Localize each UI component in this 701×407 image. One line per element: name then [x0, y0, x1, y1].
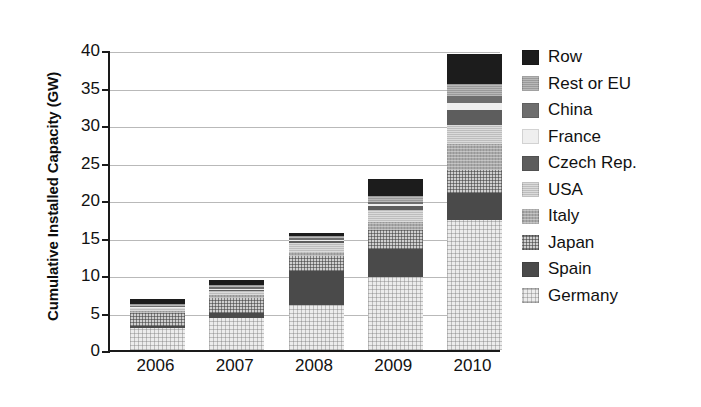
bar-segment-usa[interactable]: [209, 291, 264, 296]
bar-segment-germany[interactable]: [447, 220, 502, 350]
bar-segment-japan[interactable]: [289, 256, 344, 272]
legend-swatch-icon: [522, 182, 539, 197]
x-axis-tick-labels: 20062007200820092010: [108, 356, 500, 386]
gridline: [110, 90, 500, 91]
y-axis-tick-label: 25: [58, 154, 100, 174]
bar-2010[interactable]: [447, 54, 502, 350]
bar-segment-germany[interactable]: [289, 305, 344, 350]
y-axis-tick: [102, 351, 110, 353]
bar-segment-japan[interactable]: [130, 313, 185, 326]
legend-item-label: Row: [548, 47, 582, 67]
legend-item-label: China: [548, 100, 592, 120]
bar-segment-japan[interactable]: [209, 298, 264, 312]
legend-swatch-icon: [522, 156, 539, 171]
bar-segment-row[interactable]: [289, 233, 344, 236]
legend-item-japan[interactable]: Japan: [522, 230, 697, 257]
bar-segment-usa[interactable]: [289, 243, 344, 252]
legend-item-label: Germany: [548, 286, 618, 306]
legend-item-spain[interactable]: Spain: [522, 256, 697, 283]
bar-2008[interactable]: [289, 233, 344, 350]
x-axis-tick-label: 2006: [121, 356, 191, 376]
bar-segment-usa[interactable]: [130, 307, 185, 311]
bar-segment-spain[interactable]: [209, 313, 264, 318]
legend-item-row[interactable]: Row: [522, 44, 697, 71]
x-axis-tick-label: 2007: [200, 356, 270, 376]
legend-item-czech-rep[interactable]: Czech Rep.: [522, 150, 697, 177]
bar-segment-row[interactable]: [209, 280, 264, 285]
y-axis-tick-label: 0: [58, 341, 100, 361]
y-axis-tick: [102, 276, 110, 278]
gridline: [110, 202, 500, 203]
bar-segment-usa[interactable]: [447, 125, 502, 144]
legend-swatch-icon: [522, 209, 539, 224]
y-axis-tick-label: 35: [58, 79, 100, 99]
bar-segment-usa[interactable]: [368, 210, 423, 222]
bar-segment-japan[interactable]: [368, 230, 423, 249]
bar-2009[interactable]: [368, 179, 423, 350]
y-axis-tick: [102, 89, 110, 91]
legend-item-label: Rest or EU: [548, 74, 631, 94]
bar-segment-france[interactable]: [447, 103, 502, 111]
gridline: [110, 52, 500, 53]
bar-segment-rest-or-eu[interactable]: [130, 304, 185, 306]
legend-swatch-icon: [522, 235, 539, 250]
bar-segment-czech-rep[interactable]: [368, 206, 423, 210]
bar-segment-italy[interactable]: [209, 295, 264, 298]
bar-segment-japan[interactable]: [447, 170, 502, 193]
bar-segment-france[interactable]: [209, 289, 264, 291]
legend-swatch-icon: [522, 76, 539, 91]
bar-segment-china[interactable]: [209, 287, 264, 289]
y-axis-tick: [102, 164, 110, 166]
bar-segment-china[interactable]: [130, 306, 185, 307]
bar-segment-rest-or-eu[interactable]: [447, 84, 502, 96]
bar-segment-france[interactable]: [368, 204, 423, 206]
legend-swatch-icon: [522, 103, 539, 118]
bar-segment-spain[interactable]: [289, 271, 344, 305]
bar-2006[interactable]: [130, 299, 185, 350]
legend-item-label: Spain: [548, 259, 591, 279]
legend-item-label: Italy: [548, 206, 579, 226]
legend-item-label: Czech Rep.: [548, 153, 637, 173]
bar-segment-germany[interactable]: [209, 318, 264, 350]
legend-item-rest-or-eu[interactable]: Rest or EU: [522, 71, 697, 98]
bar-segment-china[interactable]: [368, 202, 423, 204]
legend-swatch-icon: [522, 288, 539, 303]
bar-segment-row[interactable]: [130, 299, 185, 304]
bar-segment-row[interactable]: [368, 179, 423, 196]
bar-segment-row[interactable]: [447, 54, 502, 84]
x-axis-tick-label: 2008: [279, 356, 349, 376]
bar-segment-germany[interactable]: [130, 328, 185, 351]
bar-segment-spain[interactable]: [447, 193, 502, 221]
y-axis-tick: [102, 201, 110, 203]
bar-segment-spain[interactable]: [130, 326, 185, 328]
legend-item-italy[interactable]: Italy: [522, 203, 697, 230]
bar-segment-germany[interactable]: [368, 277, 423, 351]
legend-item-germany[interactable]: Germany: [522, 283, 697, 310]
bar-segment-spain[interactable]: [368, 249, 423, 277]
bar-segment-italy[interactable]: [447, 144, 502, 170]
bar-segment-italy[interactable]: [289, 252, 344, 256]
bar-segment-czech-rep[interactable]: [209, 290, 264, 291]
legend-item-label: France: [548, 127, 601, 147]
y-axis-tick-label: 20: [58, 191, 100, 211]
bar-segment-italy[interactable]: [368, 222, 423, 230]
legend-swatch-icon: [522, 129, 539, 144]
bar-segment-china[interactable]: [447, 96, 502, 103]
bar-segment-china[interactable]: [289, 238, 344, 240]
y-axis-tick: [102, 126, 110, 128]
legend-item-france[interactable]: France: [522, 124, 697, 151]
legend-item-label: USA: [548, 180, 583, 200]
legend-item-china[interactable]: China: [522, 97, 697, 124]
bar-2007[interactable]: [209, 280, 264, 350]
bar-segment-rest-or-eu[interactable]: [209, 285, 264, 287]
bar-segment-czech-rep[interactable]: [447, 110, 502, 125]
plot-area: [108, 52, 500, 352]
bar-segment-france[interactable]: [130, 307, 185, 308]
bar-segment-rest-or-eu[interactable]: [289, 236, 344, 238]
bar-segment-czech-rep[interactable]: [289, 241, 344, 243]
bar-segment-france[interactable]: [289, 240, 344, 242]
bar-segment-rest-or-eu[interactable]: [368, 196, 423, 201]
bar-segment-italy[interactable]: [130, 311, 185, 313]
y-axis-tick-label: 30: [58, 116, 100, 136]
legend-item-usa[interactable]: USA: [522, 177, 697, 204]
